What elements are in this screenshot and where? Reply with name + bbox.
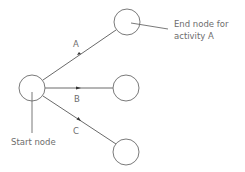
- end-node-annotation-line1: End node for: [174, 19, 229, 29]
- arrowhead-icon: [76, 87, 81, 90]
- edge-a: A: [43, 30, 116, 80]
- edge-b: B: [45, 87, 113, 105]
- arrowhead-icon: [77, 117, 82, 121]
- end-node-annotation-line2: activity A: [174, 31, 214, 41]
- activity-network-diagram: A B C End node for activity A Start node: [0, 0, 245, 172]
- end-node-c: [113, 139, 139, 165]
- edge-label-c: C: [73, 126, 79, 136]
- edge-label-b: B: [74, 94, 80, 104]
- start-node-annotation: Start node: [11, 137, 56, 147]
- end-node-b: [113, 75, 139, 101]
- edge-label-a: A: [73, 39, 79, 49]
- end-node-a: [114, 9, 140, 35]
